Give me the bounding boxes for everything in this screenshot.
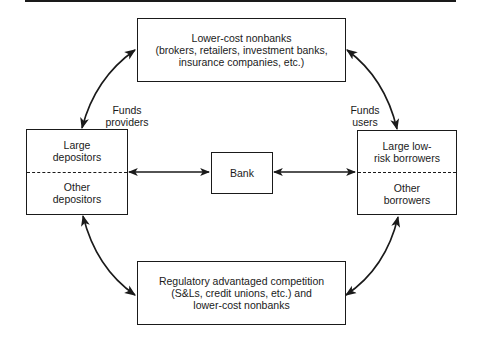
other-depositors: Other depositors (27, 173, 127, 215)
other-borrowers: Other borrowers (358, 173, 456, 214)
funds-users-line-2: users (335, 116, 395, 128)
large-borrowers-line-1: Large low- (382, 140, 431, 152)
bank-box: Bank (211, 152, 273, 194)
top-box-lower-cost-nonbanks: Lower-cost nonbanks (brokers, retailers,… (137, 18, 346, 82)
left-box-depositors: Large depositors Other depositors (26, 129, 128, 215)
other-depositors-line-2: depositors (53, 193, 101, 205)
funds-providers-label: Funds providers (92, 104, 162, 128)
bottom-box-line-3: lower-cost nonbanks (193, 299, 289, 311)
bottom-box-line-2: (S&Ls, credit unions, etc.) and (171, 287, 312, 299)
top-box-line-1: Lower-cost nonbanks (192, 32, 292, 44)
bottom-box-line-1: Regulatory advantaged competition (159, 275, 324, 287)
arrow-right-to-bottom (346, 217, 398, 295)
large-depositors: Large depositors (27, 130, 127, 172)
arrow-left-to-bottom (83, 216, 135, 295)
top-box-line-3: insurance companies, etc.) (179, 56, 304, 68)
top-box-line-2: (brokers, retailers, investment banks, (155, 44, 327, 56)
other-borrowers-line-2: borrowers (384, 194, 431, 206)
funds-providers-line-1: Funds (92, 104, 162, 116)
large-borrowers-line-2: risk borrowers (374, 152, 440, 164)
right-box-borrowers: Large low- risk borrowers Other borrower… (357, 130, 457, 215)
funds-users-label: Funds users (335, 104, 395, 128)
funds-providers-line-2: providers (92, 116, 162, 128)
large-depositors-line-1: Large (64, 139, 91, 151)
large-depositors-line-2: depositors (53, 151, 101, 163)
bank-label: Bank (230, 167, 254, 179)
large-low-risk-borrowers: Large low- risk borrowers (358, 131, 456, 172)
other-borrowers-line-1: Other (394, 182, 420, 194)
other-depositors-line-1: Other (64, 181, 90, 193)
funds-users-line-1: Funds (335, 104, 395, 116)
bottom-box-regulatory-competition: Regulatory advantaged competition (S&Ls,… (137, 261, 346, 325)
